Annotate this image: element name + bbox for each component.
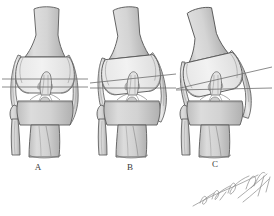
panel-b: B (90, 4, 176, 172)
panel-b-knee (90, 4, 169, 158)
panel-c-label: C (212, 159, 218, 169)
tibia (187, 97, 243, 158)
tibia (17, 97, 73, 158)
panel-c: C (164, 1, 272, 169)
artist-signature (193, 172, 270, 206)
panel-a-knee (10, 7, 78, 158)
panel-a-label: A (35, 162, 42, 172)
figure-canvas: A B (0, 0, 274, 216)
tibia (104, 97, 160, 158)
panel-c-knee (164, 1, 256, 158)
panel-b-label: B (127, 162, 133, 172)
knee-angulation-figure: A B (0, 0, 274, 216)
panel-a: A (2, 7, 88, 172)
